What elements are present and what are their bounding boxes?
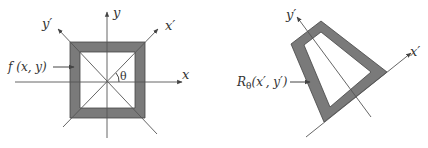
theta-label: θ [120,70,127,83]
x-prime-label: x′ [410,44,420,59]
x-prime-label: x′ [165,18,175,33]
y-prime-label: y′ [41,16,52,31]
r-theta-label: Rθ(x′, y′) [236,75,288,91]
x-axis-label: x [182,67,190,82]
f-xy-label: f (x, y) [7,60,47,74]
diagram-canvas: y x x′ y′ θ f (x, y) y′ x′ Rθ(x′, y′) [0,0,428,148]
right-figure: y′ x′ Rθ(x′, y′) [236,7,420,137]
y-prime-label: y′ [285,7,296,22]
angle-arc [116,73,119,82]
trapezoid-frame [291,21,387,122]
left-figure: y x x′ y′ θ f (x, y) [7,5,190,138]
y-axis-label: y [112,5,121,20]
